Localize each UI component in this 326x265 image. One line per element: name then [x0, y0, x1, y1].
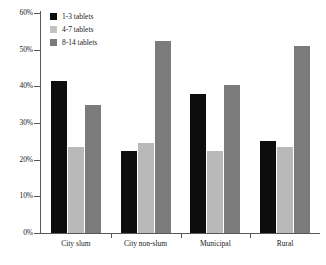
y-tick-label-wrap: 50%: [0, 46, 33, 54]
x-tick: [181, 233, 182, 238]
x-tick: [250, 233, 251, 238]
y-tick-label-wrap: 40%: [0, 82, 33, 90]
bar: [294, 46, 310, 233]
bar: [190, 94, 206, 233]
y-tick-label: 50%: [3, 46, 33, 54]
y-tick-label: 40%: [3, 82, 33, 90]
y-tick-label: 60%: [3, 9, 33, 17]
legend-label: 8-14 tablets: [62, 39, 97, 47]
legend-swatch-1-3-tablets: [50, 13, 57, 20]
legend-swatch-8-14-tablets: [50, 39, 57, 46]
y-tick-label-wrap: 0%: [0, 229, 33, 237]
bar-group: [260, 13, 310, 233]
bar-group: [190, 13, 240, 233]
bar-chart: 0%10%20%30%40%50%60% City slumCity non-s…: [0, 0, 326, 265]
y-tick-label: 10%: [3, 192, 33, 200]
y-tick-label-wrap: 30%: [0, 119, 33, 127]
y-tick-label-wrap: 10%: [0, 192, 33, 200]
bar: [51, 81, 67, 233]
bar: [85, 105, 101, 233]
bar: [68, 147, 84, 233]
legend-label: 1-3 tablets: [62, 13, 93, 21]
bar: [155, 41, 171, 234]
y-tick: [34, 13, 40, 14]
bar: [277, 147, 293, 233]
y-tick-label-wrap: 60%: [0, 9, 33, 17]
chart-legend: 1-3 tablets 4-7 tablets 8-14 tablets: [50, 11, 130, 50]
y-tick-label-wrap: 20%: [0, 156, 33, 164]
y-tick-label: 30%: [3, 119, 33, 127]
legend-item: 4-7 tablets: [50, 24, 130, 35]
bar: [260, 141, 276, 233]
y-tick: [34, 123, 40, 124]
legend-item: 1-3 tablets: [50, 11, 130, 22]
bar: [138, 143, 154, 233]
x-tick-label: City non-slum: [111, 239, 181, 248]
y-tick: [34, 86, 40, 87]
x-tick: [111, 233, 112, 238]
y-tick-label: 20%: [3, 156, 33, 164]
y-tick: [34, 160, 40, 161]
legend-swatch-4-7-tablets: [50, 26, 57, 33]
y-tick: [34, 196, 40, 197]
x-tick-label: City slum: [41, 239, 111, 248]
x-tick-label: Municipal: [181, 239, 251, 248]
bar: [207, 151, 223, 234]
y-tick-label: 0%: [3, 229, 33, 237]
bar: [224, 85, 240, 234]
y-tick: [34, 50, 40, 51]
legend-label: 4-7 tablets: [62, 26, 93, 34]
x-tick-label: Rural: [250, 239, 320, 248]
legend-item: 8-14 tablets: [50, 37, 130, 48]
bar: [121, 151, 137, 234]
